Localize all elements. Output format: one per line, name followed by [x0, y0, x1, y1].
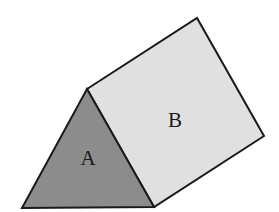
face-a-label: A — [80, 146, 96, 170]
triangular-prism-diagram: A B — [0, 0, 279, 212]
face-b-label: B — [168, 108, 182, 132]
